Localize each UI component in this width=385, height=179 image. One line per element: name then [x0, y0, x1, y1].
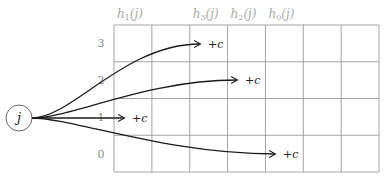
key-node: j — [6, 105, 32, 131]
column-header: h2(j) — [231, 7, 257, 22]
hash-probe-diagram: h1(j)h3(j)h2(j)h0(j) 3210 +c+c+c+c j — [0, 0, 385, 179]
column-header-base: h — [268, 7, 276, 21]
column-header: h0(j) — [268, 7, 294, 22]
column-header-arg: (j) — [130, 7, 143, 21]
column-header: h3(j) — [193, 7, 219, 22]
increment-label: +c — [245, 74, 260, 87]
row-label: 0 — [98, 148, 105, 161]
column-header-arg: (j) — [281, 7, 294, 21]
increment-label: +c — [208, 38, 223, 51]
column-header-base: h — [193, 7, 201, 21]
probe-arrows: +c+c+c+c — [32, 38, 298, 161]
row-label: 3 — [98, 37, 105, 50]
column-header: h1(j) — [117, 7, 143, 22]
table-grid — [114, 25, 379, 172]
row-labels: 3210 — [98, 37, 105, 160]
column-header-arg: (j) — [243, 7, 256, 21]
column-header-arg: (j) — [206, 7, 219, 21]
column-headers: h1(j)h3(j)h2(j)h0(j) — [117, 7, 295, 22]
probe-arrow-0 — [32, 118, 275, 154]
column-header-base: h — [231, 7, 239, 21]
increment-label: +c — [283, 148, 298, 161]
probe-arrow-3 — [32, 44, 200, 118]
increment-label: +c — [132, 112, 147, 125]
column-header-base: h — [117, 7, 125, 21]
